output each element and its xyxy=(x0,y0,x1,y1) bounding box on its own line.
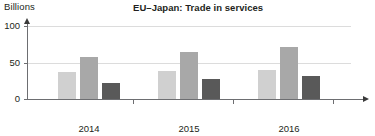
x-category-label-2016: 2016 xyxy=(246,123,332,134)
x-axis-arrow-icon xyxy=(363,96,369,102)
bar-2016-series-3 xyxy=(302,76,320,99)
y-tick-mark-50 xyxy=(24,63,28,64)
bar-2015-series-1 xyxy=(158,71,176,99)
plot-area: 050100 201420152016 Years xyxy=(27,20,371,99)
y-tick-mark-100 xyxy=(24,26,28,27)
y-tick-label-0: 0 xyxy=(15,94,20,104)
x-separator-tick-0 xyxy=(133,99,134,104)
x-separator-tick-2 xyxy=(333,99,334,104)
bar-2015-series-2 xyxy=(180,52,198,99)
y-axis-unit-label: Billions xyxy=(4,1,35,13)
x-category-label-2014: 2014 xyxy=(46,123,132,134)
gridline-100 xyxy=(27,26,351,27)
chart-title: EU–Japan: Trade in services xyxy=(133,2,263,14)
x-separator-tick-1 xyxy=(233,99,234,104)
y-axis-line xyxy=(27,22,28,99)
bar-chart: Billions EU–Japan: Trade in services 050… xyxy=(0,0,375,136)
bar-2014-series-3 xyxy=(102,83,120,99)
bar-2016-series-2 xyxy=(280,47,298,99)
y-tick-mark-0 xyxy=(24,99,28,100)
bar-2015-series-3 xyxy=(202,79,220,99)
bar-2014-series-1 xyxy=(58,72,76,99)
y-tick-label-100: 100 xyxy=(4,21,20,31)
y-tick-label-50: 50 xyxy=(9,58,20,68)
bar-2014-series-2 xyxy=(80,57,98,99)
x-category-label-2015: 2015 xyxy=(146,123,232,134)
y-axis-arrow-icon xyxy=(24,18,30,24)
bar-2016-series-1 xyxy=(258,70,276,99)
x-axis-line xyxy=(27,99,363,100)
